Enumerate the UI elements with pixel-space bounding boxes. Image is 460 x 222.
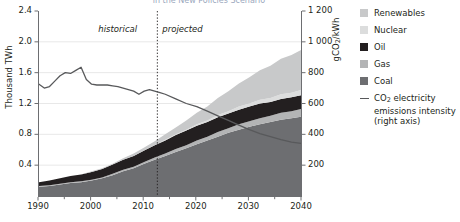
chart-figure: in the New Policies Scenario Thousand TW…	[0, 0, 460, 222]
y-tick-left: 0.8	[2, 128, 32, 138]
legend-item-co[interactable]: CO2 electricityemissions intensity(right…	[360, 93, 460, 127]
y-axis-right-label-main: gCO	[331, 43, 341, 61]
y-tick-right: 1 000	[308, 36, 342, 46]
legend-color-swatch	[360, 60, 368, 68]
chart-title: in the New Policies Scenario	[84, 0, 334, 5]
y-tick-left: 2.0	[2, 36, 32, 46]
y-tick-left: 2.4	[2, 5, 32, 15]
legend-color-swatch	[360, 77, 368, 85]
legend-color-swatch	[360, 9, 368, 17]
legend-color-swatch	[360, 43, 368, 51]
y-tick-left: 1.6	[2, 67, 32, 77]
legend-label: Coal	[374, 76, 393, 87]
legend-label: Gas	[374, 59, 390, 70]
legend-label: Oil	[374, 42, 385, 53]
y-tick-right: 400	[308, 128, 342, 138]
legend-item-coal[interactable]: Coal	[360, 76, 460, 87]
legend-color-swatch	[360, 26, 368, 34]
y-tick-right: 800	[308, 67, 342, 77]
x-tick: 1990	[18, 201, 58, 211]
legend-item-nuclear[interactable]: Nuclear	[360, 25, 460, 36]
area-coal	[39, 117, 302, 196]
plot-area	[38, 11, 302, 197]
x-tick: 2040	[281, 201, 321, 211]
legend-line-marker	[360, 98, 369, 99]
y-tick-left: 1.2	[2, 98, 32, 108]
legend-item-gas[interactable]: Gas	[360, 59, 460, 70]
legend-label: Renewables	[374, 8, 425, 19]
x-tick: 2030	[228, 201, 268, 211]
chart-legend: RenewablesNuclearOilGasCoalCO2 electrici…	[360, 8, 460, 133]
chart-svg	[39, 11, 302, 196]
y-tick-right: 600	[308, 98, 342, 108]
y-tick-right: 200	[308, 159, 342, 169]
x-tick: 2000	[71, 201, 111, 211]
legend-label: Nuclear	[374, 25, 407, 36]
legend-item-oil[interactable]: Oil	[360, 42, 460, 53]
y-tick-left: 0.4	[2, 159, 32, 169]
legend-label: CO2 electricityemissions intensity(right…	[374, 93, 456, 127]
y-tick-right: 1 200	[308, 5, 342, 15]
x-tick: 2010	[123, 201, 163, 211]
legend-item-renewables[interactable]: Renewables	[360, 8, 460, 19]
x-tick: 2020	[176, 201, 216, 211]
